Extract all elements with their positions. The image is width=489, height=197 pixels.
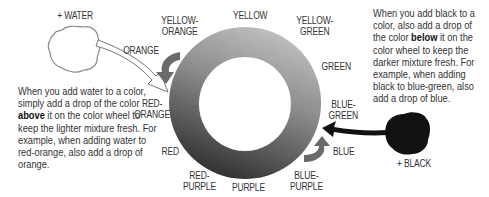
black-arrow-icon	[322, 121, 388, 137]
label-line: YELLOW-	[296, 15, 333, 26]
black-label: + BLACK	[397, 158, 431, 169]
label-line: GREEN	[329, 110, 358, 121]
label-yellow: YELLOW	[233, 10, 267, 21]
color-wheel-ring	[169, 27, 321, 179]
label-red-purple: RED- PURPLE	[183, 170, 216, 192]
black-explanation: When you add black to a color, also add …	[373, 8, 486, 106]
emphasis-above: above	[18, 110, 45, 121]
water-drop-icon	[48, 26, 100, 72]
label-green: GREEN	[322, 61, 351, 72]
label-orange: ORANGE	[123, 45, 159, 56]
black-drop-icon	[385, 112, 430, 154]
label-line: ORANGE	[161, 26, 198, 37]
label-purple: PURPLE	[232, 182, 265, 193]
label-blue-purple: BLUE- PURPLE	[290, 170, 323, 192]
label-line: BLUE-	[290, 170, 323, 181]
label-red: RED	[162, 146, 179, 157]
label-yellow-orange: YELLOW- ORANGE	[161, 15, 198, 37]
label-line: YELLOW-	[161, 15, 198, 26]
water-label: + WATER	[57, 10, 93, 21]
text-segment: When you add water to a color, simply ad…	[18, 86, 146, 109]
label-line: PURPLE	[290, 181, 323, 192]
label-blue: BLUE	[333, 146, 355, 157]
label-line: GREEN	[296, 26, 333, 37]
label-line: PURPLE	[183, 181, 216, 192]
label-line: BLUE-	[329, 99, 358, 110]
label-line: RED-	[183, 170, 216, 181]
label-blue-green: BLUE- GREEN	[329, 99, 358, 121]
emphasis-below: below	[411, 32, 437, 43]
label-yellow-green: YELLOW- GREEN	[296, 15, 333, 37]
water-explanation: When you add water to a color, simply ad…	[18, 86, 162, 171]
